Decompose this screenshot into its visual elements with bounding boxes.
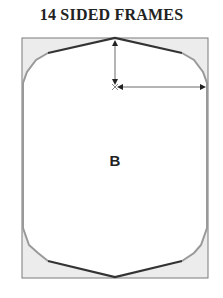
frame-diagram (0, 0, 223, 298)
center-label: B (105, 152, 125, 169)
